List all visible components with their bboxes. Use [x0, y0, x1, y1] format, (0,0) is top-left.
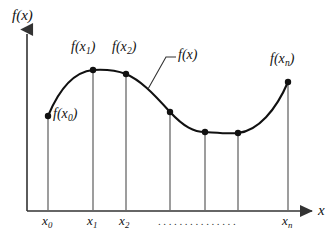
tick-label-xn: xn: [282, 214, 292, 230]
point-x2: [123, 71, 129, 77]
tick-label-x1: x1: [87, 214, 97, 230]
tick-label-x0-head: x: [42, 213, 48, 228]
point-x5: [235, 130, 241, 136]
x-axis-label: x: [318, 203, 325, 218]
function-plot-figure: f(x) x f(x0) f(x1) f(x2) f(xn) f(x) x0 x…: [0, 0, 335, 240]
drop-line-group: [48, 71, 288, 210]
curve-label-leader-line: [148, 57, 176, 89]
point-label-fx2-head: f(x: [112, 39, 127, 54]
tick-label-xn-head: x: [282, 213, 288, 228]
point-label-fx0-head: f(x: [53, 106, 68, 121]
tick-label-x2-subscript: 2: [125, 220, 129, 230]
point-label-fx1-head: f(x: [71, 39, 86, 54]
plot-canvas: [0, 0, 335, 240]
point-x0: [45, 113, 51, 119]
point-x1: [90, 67, 96, 73]
tick-label-x0-subscript: 0: [48, 220, 52, 230]
point-label-fx2-close: ): [132, 39, 137, 54]
tick-label-xn-subscript: n: [288, 220, 292, 230]
tick-label-x1-head: x: [87, 213, 93, 228]
point-xn: [285, 79, 291, 85]
point-label-fxn-head: f(x: [270, 51, 285, 66]
tick-label-x2-head: x: [119, 213, 125, 228]
curve-annotation-label: f(x): [178, 48, 197, 62]
point-label-fx1-close: ): [91, 39, 96, 54]
sample-point-group: [45, 67, 291, 136]
y-axis-label: f(x): [12, 8, 33, 23]
tick-label-x2: x2: [119, 214, 129, 230]
tick-ellipsis: ...............: [158, 216, 238, 227]
tick-label-x1-subscript: 1: [93, 220, 97, 230]
function-curve: [48, 70, 288, 134]
point-label-fx1: f(x1): [71, 40, 95, 57]
point-label-fx2: f(x2): [112, 40, 136, 57]
point-label-fx0: f(x0): [53, 107, 77, 124]
point-label-fxn-close: ): [290, 51, 295, 66]
tick-label-x0: x0: [42, 214, 52, 230]
point-x4: [202, 129, 208, 135]
point-label-fx0-close: ): [73, 106, 78, 121]
point-label-fxn: f(xn): [270, 52, 294, 69]
point-x3: [167, 109, 173, 115]
